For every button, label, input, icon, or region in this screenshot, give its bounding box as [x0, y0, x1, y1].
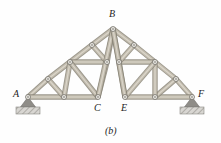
joint-label-B: B	[109, 9, 115, 19]
joint-R1	[153, 95, 158, 100]
joint-LM2	[105, 60, 110, 65]
joint-label-C: C	[94, 103, 101, 113]
joint-label-A: A	[13, 89, 19, 99]
truss-figure: (b) ABCEF	[0, 0, 221, 143]
member-LR2-C	[70, 62, 98, 97]
joint-A	[26, 95, 31, 100]
joint-F	[190, 95, 195, 100]
joint-L1	[62, 95, 67, 100]
joint-label-F: F	[198, 89, 204, 99]
joint-C	[96, 95, 101, 100]
joint-RR3	[132, 43, 137, 48]
joint-RM1	[117, 60, 122, 65]
joint-LR2	[68, 60, 73, 65]
joint-B	[111, 27, 116, 32]
figure-caption: (b)	[105, 126, 117, 136]
member-RR2-E	[125, 62, 155, 97]
joint-E	[123, 95, 128, 100]
joint-RR2	[153, 60, 158, 65]
member-RR2-RR1	[155, 62, 176, 79]
members-layer	[28, 29, 192, 97]
truss-drawing	[0, 0, 221, 143]
joint-LR3	[90, 43, 95, 48]
joint-label-E: E	[121, 103, 127, 113]
joint-RR1	[174, 77, 179, 82]
joint-LR1	[46, 77, 51, 82]
